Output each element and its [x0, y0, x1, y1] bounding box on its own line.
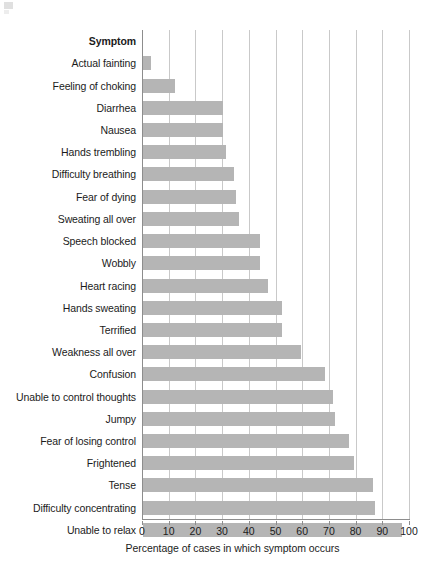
- x-tick-label-10: 10: [163, 525, 175, 537]
- bar-row: Heart racing: [0, 274, 439, 296]
- bar-label: Difficulty concentrating: [0, 502, 136, 514]
- bar-row: Sweating all over: [0, 208, 439, 230]
- bar-row: Feeling of choking: [0, 74, 439, 96]
- bar: [143, 145, 226, 159]
- x-tick-label-20: 20: [190, 525, 202, 537]
- x-axis-title-text: Percentage of cases in which symptom occ…: [126, 542, 340, 554]
- bar-chart: SymptomActual faintingFeeling of choking…: [0, 0, 439, 581]
- bar-label: Confusion: [0, 368, 136, 380]
- bar: [143, 190, 236, 204]
- bar-label: Actual fainting: [0, 57, 136, 69]
- bar-row: Fear of dying: [0, 186, 439, 208]
- bar: [143, 345, 301, 359]
- bar-row: Hands trembling: [0, 141, 439, 163]
- bar-row: Tense: [0, 474, 439, 496]
- x-tick-label-40: 40: [243, 525, 255, 537]
- x-tick-label-80: 80: [350, 525, 362, 537]
- bar: [143, 101, 223, 115]
- bar: [143, 412, 335, 426]
- x-axis-ticks: 0102030405060708090100: [0, 521, 439, 539]
- bar-row: Wobbly: [0, 252, 439, 274]
- bar-row: Weakness all over: [0, 341, 439, 363]
- bar: [143, 256, 260, 270]
- bar: [143, 367, 325, 381]
- bar-label: Fear of dying: [0, 191, 136, 203]
- bar-label: Unable to control thoughts: [0, 391, 136, 403]
- bar-rows: SymptomActual faintingFeeling of choking…: [0, 30, 439, 519]
- bar-row: Unable to control thoughts: [0, 386, 439, 408]
- bar-label: Hands trembling: [0, 146, 136, 158]
- bar-label: Hands sweating: [0, 302, 136, 314]
- x-tick-label-0: 0: [139, 525, 145, 537]
- bar-label: Difficulty breathing: [0, 168, 136, 180]
- bar-row: Terrified: [0, 319, 439, 341]
- bar-label: Speech blocked: [0, 235, 136, 247]
- x-axis-title: Percentage of cases in which symptom occ…: [0, 542, 439, 554]
- bar: [143, 390, 333, 404]
- x-tick-label-30: 30: [216, 525, 228, 537]
- bar-row: Speech blocked: [0, 230, 439, 252]
- bar-row: Difficulty breathing: [0, 163, 439, 185]
- bar: [143, 79, 175, 93]
- bar-row: Fear of losing control: [0, 430, 439, 452]
- x-tick-label-70: 70: [323, 525, 335, 537]
- x-tick-label-60: 60: [296, 525, 308, 537]
- bar-label: Feeling of choking: [0, 80, 136, 92]
- x-tick-label-90: 90: [376, 525, 388, 537]
- bar: [143, 279, 268, 293]
- bar: [143, 56, 151, 70]
- bar-row: Diarrhea: [0, 97, 439, 119]
- x-tick-label-50: 50: [270, 525, 282, 537]
- bar: [143, 501, 375, 515]
- bar-label: Terrified: [0, 324, 136, 336]
- bar-row: Nausea: [0, 119, 439, 141]
- bar-label: Jumpy: [0, 413, 136, 425]
- bar-row: Hands sweating: [0, 297, 439, 319]
- bar: [143, 456, 354, 470]
- bar-label: Heart racing: [0, 280, 136, 292]
- bar: [143, 234, 260, 248]
- bar: [143, 167, 234, 181]
- bar-row: Frightened: [0, 452, 439, 474]
- scan-artifact-secondary: [4, 10, 9, 14]
- bar: [143, 434, 349, 448]
- x-tick-label-100: 100: [400, 525, 418, 537]
- bar-label: Tense: [0, 479, 136, 491]
- bar: [143, 323, 282, 337]
- bar-label: Frightened: [0, 457, 136, 469]
- bar-row: Difficulty concentrating: [0, 497, 439, 519]
- bar-label: Nausea: [0, 124, 136, 136]
- bar-label: Sweating all over: [0, 213, 136, 225]
- category-header-row: Symptom: [0, 30, 439, 52]
- bar-label: Diarrhea: [0, 102, 136, 114]
- bar: [143, 301, 282, 315]
- bar: [143, 123, 223, 137]
- bar-label: Weakness all over: [0, 346, 136, 358]
- bar-row: Confusion: [0, 363, 439, 385]
- scan-artifact: [4, 2, 13, 9]
- bar: [143, 212, 239, 226]
- bar-label: Wobbly: [0, 257, 136, 269]
- bar-row: Actual fainting: [0, 52, 439, 74]
- category-header-label: Symptom: [0, 35, 136, 47]
- bar-row: Jumpy: [0, 408, 439, 430]
- bar-label: Fear of losing control: [0, 435, 136, 447]
- bar: [143, 478, 373, 492]
